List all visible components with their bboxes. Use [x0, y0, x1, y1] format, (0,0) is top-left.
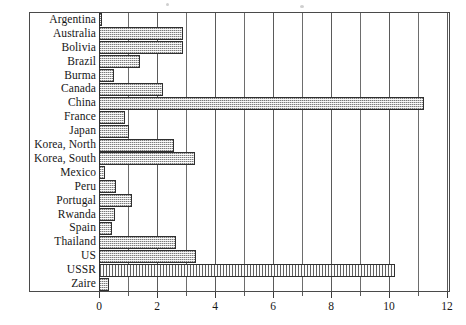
- x-tick-major: [99, 292, 100, 298]
- category-label-rwanda: Rwanda: [4, 208, 96, 221]
- x-tick-label: 2: [154, 300, 160, 313]
- bar-peru: [99, 180, 116, 193]
- x-tick-minor: [128, 292, 129, 296]
- gridline-minor: [302, 13, 303, 291]
- bar-mexico: [99, 166, 105, 179]
- x-tick-minor: [360, 292, 361, 296]
- bar-canada: [99, 83, 163, 96]
- gridline-minor: [360, 13, 361, 291]
- category-label-brazil: Brazil: [4, 55, 96, 68]
- category-label-ussr: USSR: [4, 263, 96, 276]
- bar-rwanda: [99, 208, 115, 221]
- gridline-major: [331, 13, 332, 291]
- category-label-peru: Peru: [4, 180, 96, 193]
- x-tick-label: 8: [328, 300, 334, 313]
- gridline-major: [273, 13, 274, 291]
- bar-brazil: [99, 55, 140, 68]
- category-label-japan: Japan: [4, 124, 96, 137]
- x-tick-label: 6: [270, 300, 276, 313]
- x-axis: 024681012: [99, 292, 447, 318]
- category-label-us: US: [4, 249, 96, 262]
- bar-ussr: [99, 264, 395, 277]
- bar-thailand: [99, 236, 176, 249]
- x-tick-minor: [244, 292, 245, 296]
- category-label-burma: Burma: [4, 69, 96, 82]
- x-tick-major: [389, 292, 390, 298]
- bar-zaire: [99, 278, 109, 291]
- x-tick-major: [331, 292, 332, 298]
- bar-korea-south: [99, 152, 195, 165]
- y-axis-category-labels: ArgentinaAustraliaBoliviaBrazilBurmaCana…: [0, 13, 96, 291]
- gridline-major: [389, 13, 390, 291]
- category-label-korea-south: Korea, South: [4, 152, 96, 165]
- bar-chart: ArgentinaAustraliaBoliviaBrazilBurmaCana…: [0, 0, 466, 325]
- category-label-korea-north: Korea, North: [4, 138, 96, 151]
- category-label-argentina: Argentina: [4, 13, 96, 26]
- x-tick-minor: [418, 292, 419, 296]
- category-label-thailand: Thailand: [4, 235, 96, 248]
- bar-china: [99, 97, 424, 110]
- bar-spain: [99, 222, 112, 235]
- gridline-major: [447, 13, 448, 291]
- x-tick-major: [157, 292, 158, 298]
- bar-korea-north: [99, 139, 174, 152]
- category-label-spain: Spain: [4, 221, 96, 234]
- x-tick-label: 4: [212, 300, 218, 313]
- bar-bolivia: [99, 41, 183, 54]
- gridline-major: [215, 13, 216, 291]
- scan-speck: [166, 3, 169, 6]
- bar-us: [99, 250, 196, 263]
- category-label-bolivia: Bolivia: [4, 41, 96, 54]
- category-label-zaire: Zaire: [4, 277, 96, 290]
- category-label-france: France: [4, 110, 96, 123]
- x-tick-minor: [186, 292, 187, 296]
- category-label-china: China: [4, 96, 96, 109]
- bar-australia: [99, 27, 183, 40]
- bar-japan: [99, 125, 129, 138]
- gridline-minor: [418, 13, 419, 291]
- category-label-mexico: Mexico: [4, 166, 96, 179]
- bar-burma: [99, 69, 114, 82]
- bar-argentina: [99, 13, 102, 26]
- plot-area: [99, 13, 447, 291]
- category-label-canada: Canada: [4, 82, 96, 95]
- x-tick-label: 12: [441, 300, 453, 313]
- category-label-australia: Australia: [4, 27, 96, 40]
- x-tick-minor: [302, 292, 303, 296]
- x-tick-major: [447, 292, 448, 298]
- bar-france: [99, 111, 125, 124]
- x-tick-label: 0: [96, 300, 102, 313]
- x-tick-major: [215, 292, 216, 298]
- gridline-minor: [244, 13, 245, 291]
- category-label-portugal: Portugal: [4, 194, 96, 207]
- x-tick-major: [273, 292, 274, 298]
- scan-speck: [300, 5, 304, 8]
- bar-portugal: [99, 194, 132, 207]
- x-tick-label: 10: [383, 300, 395, 313]
